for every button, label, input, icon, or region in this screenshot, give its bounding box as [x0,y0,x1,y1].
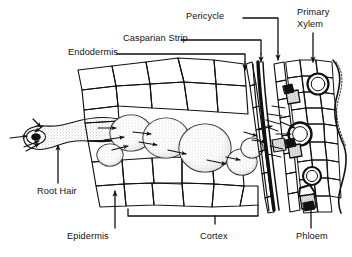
label-cortex: Cortex [200,231,228,242]
label-epidermis: Epidermis [67,231,109,242]
label-phloem: Phloem [296,231,328,242]
stele-outer-boundary [333,60,346,213]
label-root-hair: Root Hair [37,186,77,197]
label-primary-xylem-line2: Xylem [297,19,323,30]
label-pericycle: Pericycle [186,11,224,22]
label-primary-xylem-line1: Primary [297,7,329,18]
cortex-cells-upper [112,58,248,114]
label-endodermis: Endodermis [68,47,118,58]
label-casparian-strip: Casparian Strip [123,33,188,44]
bracket-cortex [128,205,258,224]
apoplast-pathway-cells [97,115,263,175]
